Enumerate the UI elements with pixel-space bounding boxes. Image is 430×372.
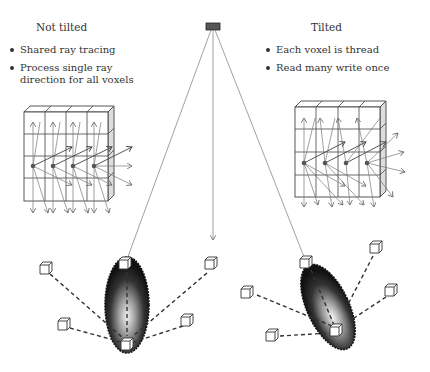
detector-cube-icon [266,329,278,341]
diagram-canvas [0,0,430,372]
detector-cube-icon [40,262,52,274]
detector-cube-icon [58,318,70,330]
ellipsoid-specimen-tilted [241,241,397,358]
beam-lines [126,30,306,262]
detector-cube-icon [300,256,312,268]
detector-cube-icon [370,241,382,253]
ellipsoid-specimen-vertical [40,257,217,353]
detector-cube-icon [241,286,253,298]
voxel-grid-tilted [295,101,405,207]
voxel-grid-not-tilted [24,106,132,213]
detector-cube-icon [205,257,217,269]
detector-cube-icon [330,324,342,336]
detector-cube-icon [119,257,131,269]
x-ray-source-icon [206,23,220,30]
detector-cube-icon [121,338,133,350]
detector-cube-icon [181,314,193,326]
detector-cube-icon [385,284,397,296]
